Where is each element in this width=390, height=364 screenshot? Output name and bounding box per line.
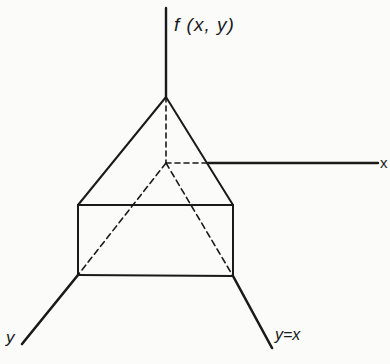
y-axis: [22, 275, 78, 344]
z-axis-label: f (x, y): [174, 15, 235, 34]
diagonal-y-equals-x: [233, 276, 272, 348]
hidden-y-axis: [78, 163, 166, 275]
x-axis-label: x: [380, 155, 388, 170]
pyramid-diagram: [0, 0, 390, 364]
y-axis-label: y: [6, 329, 15, 346]
hidden-diagonal: [166, 163, 233, 276]
square-bottom-edge: [78, 275, 233, 276]
diagonal-label: y=x: [275, 327, 300, 343]
pyramid-edge-right: [166, 97, 233, 205]
pyramid-edge-left: [78, 97, 166, 205]
